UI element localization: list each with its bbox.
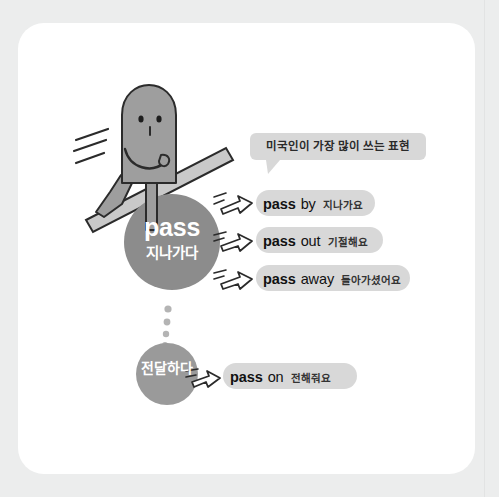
page-root: 미국인이 가장 많이 쓰는 표현 pass 지나가다 전달하다 pass by … [0, 0, 499, 497]
bubble-caption: 미국인이 가장 많이 쓰는 표현 [256, 141, 420, 153]
main-concept-circle [124, 194, 220, 290]
main-circle-meaning: 지나가다 [124, 246, 220, 261]
phrase-verb: pass [263, 233, 296, 249]
sub-circle-meaning: 전달하다 [125, 361, 209, 375]
phrase-verb: pass [263, 196, 296, 212]
phrase-particle: out [301, 233, 321, 249]
phrase-gloss: 기절해요 [328, 234, 368, 249]
arrow-2 [214, 270, 252, 289]
phrase-particle: on [268, 369, 284, 385]
phrase-verb: pass [230, 369, 263, 385]
motion-lines [74, 129, 108, 163]
phrase-particle: away [301, 271, 334, 287]
arrow-0 [214, 193, 252, 214]
eye-left [138, 115, 143, 122]
phrase-verb: pass [263, 271, 296, 287]
eye-right [156, 115, 161, 122]
phrase-gloss: 지나가요 [323, 197, 363, 212]
illustration-svg [18, 23, 475, 474]
phrase-gloss: 전해줘요 [291, 370, 331, 385]
main-circle-word: pass [124, 215, 220, 240]
content-card: 미국인이 가장 많이 쓰는 표현 pass 지나가다 전달하다 pass by … [18, 23, 475, 474]
phrase-gloss: 돌아가셨어요 [341, 272, 401, 287]
phrase-item: pass out 기절해요 [263, 229, 368, 253]
phrase-item: pass by 지나가요 [263, 192, 363, 216]
illustration-stage: 미국인이 가장 많이 쓰는 표현 pass 지나가다 전달하다 pass by … [18, 23, 475, 474]
phrase-item: pass away 돌아가셨어요 [263, 267, 401, 291]
phrase-particle: by [301, 196, 316, 212]
right-edge-divider [484, 0, 485, 497]
phrase-item: pass on 전해줘요 [230, 365, 331, 389]
